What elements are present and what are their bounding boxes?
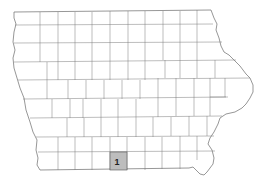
state-outline: [13, 10, 253, 175]
county-label: 1: [115, 157, 120, 167]
county-lines: [14, 10, 250, 170]
iowa-county-map: 1: [0, 0, 266, 185]
